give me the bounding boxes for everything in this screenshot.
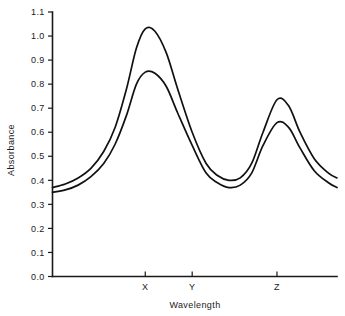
chart-canvas: 0.00.10.20.30.40.50.60.70.80.91.01.1 XYZ… [0, 0, 345, 316]
axes-group [53, 12, 338, 277]
y-axis-tick-labels: 0.00.10.20.30.40.50.60.70.80.91.01.1 [31, 7, 44, 282]
x-axis-title: Wavelength [169, 300, 220, 310]
y-tick-label: 0.7 [31, 103, 44, 113]
y-tick-label: 1.1 [31, 7, 44, 17]
y-tick-label: 0.0 [31, 272, 44, 282]
y-tick-label: 0.2 [31, 224, 44, 234]
y-tick-label: 1.0 [31, 31, 44, 41]
x-axis-tick-labels: XYZ [142, 282, 280, 292]
spectrum-curve-upper [53, 27, 338, 187]
x-tick-label: Y [189, 282, 195, 292]
y-tick-label: 0.6 [31, 127, 44, 137]
x-tick-label: X [142, 282, 148, 292]
y-tick-label: 0.4 [31, 176, 44, 186]
y-tick-label: 0.5 [31, 151, 44, 161]
y-tick-label: 0.8 [31, 79, 44, 89]
x-tick-label: Z [274, 282, 280, 292]
y-tick-label: 0.9 [31, 55, 44, 65]
spectrum-curve-lower [53, 71, 338, 192]
y-tick-label: 0.3 [31, 200, 44, 210]
y-axis-title: Absorbance [6, 124, 16, 176]
spectrum-curves [53, 27, 338, 192]
y-tick-label: 0.1 [31, 248, 44, 258]
absorbance-spectrum-figure: 0.00.10.20.30.40.50.60.70.80.91.01.1 XYZ… [0, 0, 345, 316]
